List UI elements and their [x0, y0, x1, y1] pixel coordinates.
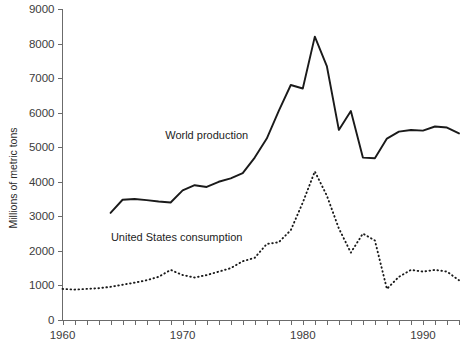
line-chart: 0100020003000400050006000700080009000 19… [0, 0, 463, 351]
y-tick-label: 5000 [29, 141, 55, 153]
y-tick-label: 3000 [29, 210, 55, 222]
y-tick-label: 1000 [29, 279, 55, 291]
series-line-solid [111, 37, 459, 213]
y-tick-label: 8000 [29, 38, 55, 50]
y-tick-label: 2000 [29, 245, 55, 257]
y-tick-label: 7000 [29, 72, 55, 84]
y-tick-label: 9000 [29, 3, 55, 15]
x-tick-label: 1980 [290, 329, 316, 341]
series-label: United States consumption [111, 231, 242, 243]
x-tick-label: 1990 [410, 329, 436, 341]
y-tick-label: 0 [48, 314, 54, 326]
series-label: World production [165, 129, 248, 141]
y-tick-label: 6000 [29, 107, 55, 119]
x-tick-label: 1960 [50, 329, 76, 341]
series-labels-group: World productionUnited States consumptio… [111, 129, 248, 243]
x-axis-ticks: 1960197019801990 [50, 320, 460, 341]
data-series-group [63, 37, 460, 290]
y-tick-label: 4000 [29, 176, 55, 188]
y-axis-title: Millions of metric tons [7, 128, 19, 229]
y-axis-ticks: 0100020003000400050006000700080009000 [29, 3, 63, 326]
x-tick-label: 1970 [170, 329, 196, 341]
chart-container: 0100020003000400050006000700080009000 19… [0, 0, 463, 351]
